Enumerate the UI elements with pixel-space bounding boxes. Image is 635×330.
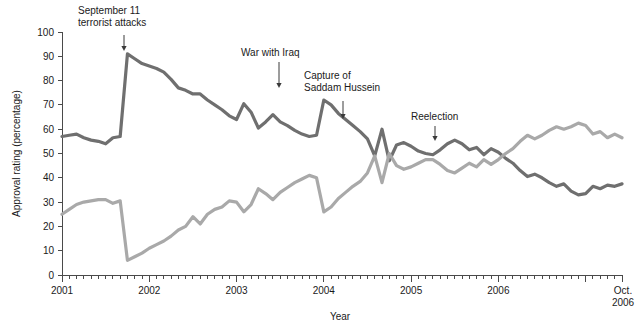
y-tick-label: 100 bbox=[37, 27, 54, 38]
y-tick-label: 20 bbox=[43, 221, 55, 232]
x-tick-label: 2006 bbox=[487, 285, 510, 296]
chart-canvas: 0102030405060708090100 20012002200320042… bbox=[0, 0, 635, 330]
cropped-caption-ghost bbox=[38, 324, 41, 330]
annotation-arrow-head bbox=[432, 136, 437, 141]
x-tick-label-second-line: 2006 bbox=[612, 297, 635, 308]
x-tick-label: 2001 bbox=[51, 285, 74, 296]
y-tick-label: 10 bbox=[43, 245, 55, 256]
x-tick-label: 2002 bbox=[138, 285, 161, 296]
annotation-label: terrorist attacks bbox=[78, 17, 146, 28]
y-tick-label: 0 bbox=[48, 270, 54, 281]
x-tick-label: 2005 bbox=[400, 285, 423, 296]
y-tick-label: 90 bbox=[43, 51, 55, 62]
annotation-arrow-head bbox=[276, 83, 281, 88]
annotation-label: Saddam Hussein bbox=[304, 82, 380, 93]
y-axis-title: Approval rating (percentage) bbox=[11, 90, 22, 217]
x-tick-label: 2004 bbox=[313, 285, 336, 296]
x-axis: 200120022003200420052006Oct.2006 bbox=[51, 275, 635, 308]
y-axis: 0102030405060708090100 bbox=[37, 27, 62, 281]
x-tick-label: Oct. bbox=[614, 285, 632, 296]
x-tick-label: 2003 bbox=[225, 285, 248, 296]
approval-rating-chart: 0102030405060708090100 20012002200320042… bbox=[0, 0, 635, 330]
y-tick-label: 80 bbox=[43, 75, 55, 86]
y-tick-label: 70 bbox=[43, 99, 55, 110]
annotation-label: Capture of bbox=[304, 70, 351, 81]
x-axis-title: Year bbox=[330, 311, 351, 322]
y-tick-label: 40 bbox=[43, 172, 55, 183]
y-tick-label: 30 bbox=[43, 197, 55, 208]
annotation-arrow-head bbox=[121, 46, 126, 51]
annotation-label: Reelection bbox=[411, 111, 458, 122]
annotation-label: September 11 bbox=[78, 5, 141, 16]
series-line-disapprove bbox=[62, 123, 622, 260]
y-tick-label: 60 bbox=[43, 124, 55, 135]
y-tick-label: 50 bbox=[43, 148, 55, 159]
annotation-label: War with Iraq bbox=[241, 47, 300, 58]
